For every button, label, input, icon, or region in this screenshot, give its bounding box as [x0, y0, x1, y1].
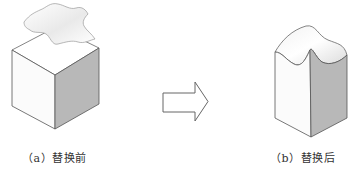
caption-before: （a）替换前	[22, 149, 87, 165]
box-left-face	[275, 50, 311, 137]
figure-canvas	[0, 0, 349, 169]
box-after	[275, 26, 347, 137]
arrow-right-outline-icon	[163, 82, 208, 121]
caption-after: （b）替换后	[270, 149, 335, 165]
